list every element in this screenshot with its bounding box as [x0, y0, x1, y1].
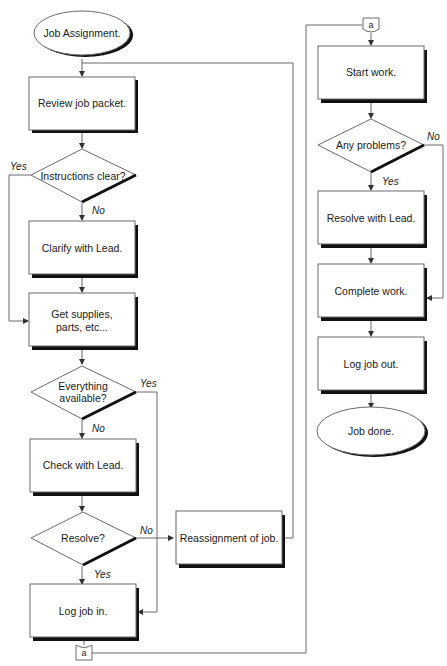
- node-connector-top: a: [363, 18, 379, 32]
- edge-label-yes: Yes: [382, 176, 399, 187]
- node-review-job-packet: Review job packet.: [29, 77, 138, 133]
- node-label: Instructions clear?: [40, 170, 125, 182]
- node-clarify-with-lead: Clarify with Lead.: [29, 221, 138, 278]
- node-complete-work: Complete work.: [318, 264, 427, 321]
- node-label: Clarify with Lead.: [42, 242, 123, 254]
- connector-label: a: [368, 20, 373, 30]
- node-resolve-with-lead: Resolve with Lead.: [318, 191, 427, 248]
- node-everything-available: Everything available?: [31, 366, 136, 419]
- node-label: Log job out.: [344, 358, 399, 370]
- edge-instructions-yes: [9, 175, 31, 321]
- node-label-line2: available?: [59, 392, 106, 404]
- node-log-job-in: Log job in.: [30, 584, 139, 641]
- node-label: Job done.: [348, 425, 394, 437]
- node-start-work: Start work.: [318, 46, 427, 103]
- node-label: Check with Lead.: [43, 459, 124, 471]
- flowchart-canvas: Job Assignment. Review job packet. Instr…: [0, 0, 447, 666]
- node-log-job-out: Log job out.: [318, 337, 427, 394]
- edge-label-no: No: [92, 205, 105, 216]
- edge-label-yes: Yes: [10, 161, 27, 172]
- node-instructions-clear: Instructions clear?: [31, 149, 136, 202]
- edge-available-yes: [136, 392, 157, 612]
- node-job-done: Job done.: [317, 407, 428, 457]
- node-label: Any problems?: [336, 139, 406, 151]
- node-label-line1: Get supplies,: [51, 308, 112, 320]
- edge-label-yes: Yes: [140, 378, 157, 389]
- node-label: Start work.: [346, 66, 396, 78]
- node-label: Review job packet.: [38, 97, 126, 109]
- node-reassignment-of-job: Reassignment of job.: [176, 511, 285, 568]
- node-get-supplies: Get supplies, parts, etc...: [29, 293, 138, 350]
- edge-label-no: No: [92, 423, 105, 434]
- edge-label-no: No: [140, 525, 153, 536]
- node-connector-bottom: a: [76, 645, 92, 660]
- node-check-with-lead: Check with Lead.: [30, 439, 139, 496]
- node-label: Log job in.: [59, 605, 107, 617]
- node-label: Resolve with Lead.: [327, 212, 416, 224]
- node-label: Complete work.: [335, 285, 408, 297]
- edge-label-no: No: [427, 131, 440, 142]
- node-label: Reassignment of job.: [180, 532, 279, 544]
- node-label-line2: parts, etc...: [56, 321, 108, 333]
- edge-label-yes: Yes: [94, 569, 111, 580]
- node-label: Job Assignment.: [43, 27, 120, 39]
- connector-label: a: [81, 648, 86, 658]
- node-any-problems: Any problems?: [318, 119, 424, 172]
- node-label-line1: Everything: [58, 380, 108, 392]
- node-resolve: Resolve?: [31, 512, 136, 565]
- node-job-assignment: Job Assignment.: [34, 11, 133, 57]
- node-label: Resolve?: [61, 532, 105, 544]
